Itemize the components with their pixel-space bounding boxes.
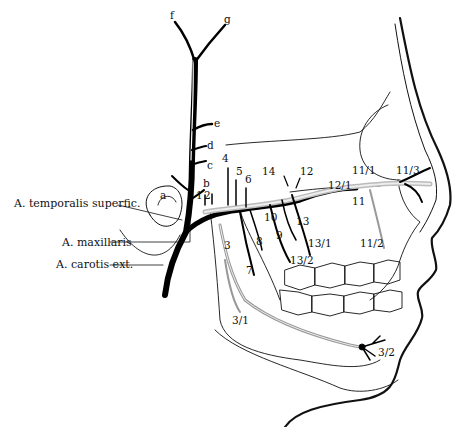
artery-diagram: [0, 0, 468, 427]
label-d: d: [207, 140, 214, 151]
label-13-1: 13/1: [308, 238, 332, 249]
label-maxillaris: A. maxillaris: [62, 237, 132, 248]
label-12: 12: [300, 166, 313, 177]
label-11: 11: [352, 196, 365, 207]
label-4: 4: [222, 153, 229, 164]
branch-14: [284, 176, 288, 186]
label-e: e: [214, 118, 220, 129]
label-12-1: 12/1: [328, 180, 352, 191]
label-g: g: [224, 14, 231, 25]
inner-profile-line: [395, 24, 437, 232]
label-1: 1: [196, 190, 203, 201]
label-3: 3: [224, 240, 231, 251]
label-11-3: 11/3: [396, 165, 420, 176]
mandible-lower: [215, 330, 398, 391]
alveolar-inf-nerve: [220, 225, 362, 347]
label-a: a: [160, 190, 166, 201]
label-b: b: [203, 178, 210, 189]
branch-g: [195, 25, 225, 62]
nerve-band-inner: [205, 183, 430, 212]
label-temporalis-superfic: A. temporalis superfic.: [14, 198, 141, 209]
anatomical-figure: A. temporalis superfic. A. maxillaris A.…: [0, 0, 468, 427]
label-13: 13: [296, 216, 309, 227]
label-8: 8: [256, 236, 263, 247]
branch-f: [175, 22, 195, 62]
label-f: f: [170, 10, 174, 21]
label-c: c: [207, 160, 213, 171]
label-13-2: 13/2: [290, 255, 314, 266]
label-11-2: 11/2: [360, 238, 384, 249]
label-carotis-ext: A. carotis ext.: [56, 259, 133, 270]
label-5: 5: [236, 166, 243, 177]
label-9: 9: [276, 230, 283, 241]
alveolar-inf-inner: [220, 225, 362, 347]
label-10: 10: [264, 212, 277, 223]
carotis-ext-vessel: [165, 60, 195, 295]
label-3-1: 3/1: [232, 315, 249, 326]
label-11-1: 11/1: [352, 165, 376, 176]
branch-12: [296, 178, 300, 188]
label-2: 2: [204, 190, 211, 201]
label-3-2: 3/2: [378, 347, 395, 358]
label-7: 7: [246, 265, 253, 276]
label-6: 6: [245, 174, 252, 185]
zygomatic-outline: [226, 92, 390, 145]
label-14: 14: [262, 166, 275, 177]
